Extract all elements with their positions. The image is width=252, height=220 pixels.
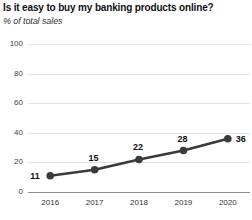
x-axis-tick-label-2016: 2016 — [30, 199, 70, 207]
data-point-marker-2016 — [46, 172, 54, 180]
data-point-marker-2019 — [180, 147, 188, 155]
data-label-2019: 28 — [177, 135, 187, 144]
y-axis-tick-label: 100 — [1, 40, 23, 48]
y-axis-tick-label: 20 — [1, 158, 23, 166]
x-axis-tick-label-2020: 2020 — [208, 199, 248, 207]
data-point-marker-2020 — [224, 135, 232, 143]
chart-subtitle: % of total sales — [3, 16, 62, 26]
data-label-2018: 22 — [133, 143, 143, 152]
y-axis-tick-label: 0 — [1, 188, 23, 196]
x-axis-tick-label-2017: 2017 — [75, 199, 115, 207]
y-axis-tick-label: 40 — [1, 129, 23, 137]
chart-title: Is it easy to buy my banking products on… — [3, 2, 214, 13]
data-point-marker-2017 — [91, 166, 99, 174]
data-label-2017: 15 — [89, 154, 99, 163]
line-series — [28, 44, 250, 192]
y-axis-tick-label: 80 — [1, 70, 23, 78]
x-axis-line — [28, 192, 250, 193]
x-axis-tick-label-2018: 2018 — [119, 199, 159, 207]
y-axis-tick-label: 60 — [1, 99, 23, 107]
data-label-2016: 11 — [30, 172, 40, 181]
chart-container: Is it easy to buy my banking products on… — [0, 0, 252, 220]
x-axis-tick-label-2019: 2019 — [163, 199, 203, 207]
plot-area — [28, 44, 250, 192]
data-point-marker-2018 — [135, 156, 143, 164]
data-label-2020: 36 — [236, 135, 246, 144]
